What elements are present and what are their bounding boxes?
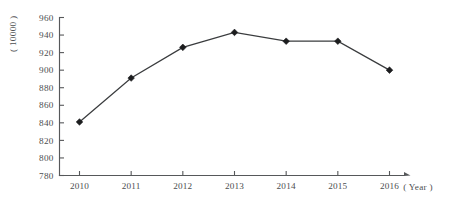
x-tick-label: 2016 <box>380 181 399 191</box>
y-tick-label: 920 <box>39 48 54 58</box>
y-tick-label: 840 <box>39 118 54 128</box>
y-tick-label: 900 <box>39 65 54 75</box>
x-tick-label: 2015 <box>328 181 347 191</box>
x-axis-ticks <box>80 171 390 176</box>
data-point-marker <box>283 38 290 45</box>
y-axis-ticks <box>60 18 65 176</box>
y-tick-label: 860 <box>39 100 54 110</box>
x-axis-name-label: ( Year ) <box>403 182 433 192</box>
data-series-line <box>80 32 390 122</box>
x-axis-tick-labels: 2010201120122013201420152016 <box>70 181 399 191</box>
x-tick-label: 2011 <box>122 181 141 191</box>
x-tick-label: 2010 <box>70 181 89 191</box>
data-point-marker <box>335 38 342 45</box>
y-tick-label: 880 <box>39 83 54 93</box>
data-point-marker <box>386 67 393 74</box>
x-tick-label: 2013 <box>225 181 244 191</box>
x-tick-label: 2012 <box>173 181 192 191</box>
x-axis-arrow-icon <box>404 172 411 176</box>
data-point-markers <box>76 29 393 125</box>
chart-canvas: ( 10000 ) 780800820840860880900920940960… <box>0 0 460 214</box>
data-point-marker <box>231 29 238 36</box>
y-tick-label: 780 <box>39 171 54 181</box>
y-axis-tick-labels: 780800820840860880900920940960 <box>39 13 54 181</box>
y-tick-label: 960 <box>39 13 54 23</box>
y-axis-unit-label: ( 10000 ) <box>8 16 18 52</box>
line-chart-figure: ( 10000 ) 780800820840860880900920940960… <box>0 0 460 214</box>
y-tick-label: 820 <box>39 136 54 146</box>
x-tick-label: 2014 <box>277 181 296 191</box>
y-tick-label: 940 <box>39 30 54 40</box>
data-point-marker <box>180 44 187 51</box>
y-tick-label: 800 <box>39 153 54 163</box>
